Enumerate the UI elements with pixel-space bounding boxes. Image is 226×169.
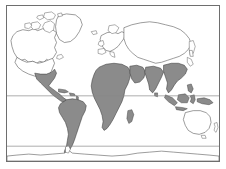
island-arctic-small-b	[58, 13, 63, 17]
map-frame	[6, 5, 220, 162]
world-map-figure	[0, 0, 226, 169]
island-tasmania	[201, 135, 206, 138]
island-lesser-antilles	[76, 96, 78, 100]
world-map-svg	[7, 6, 219, 161]
